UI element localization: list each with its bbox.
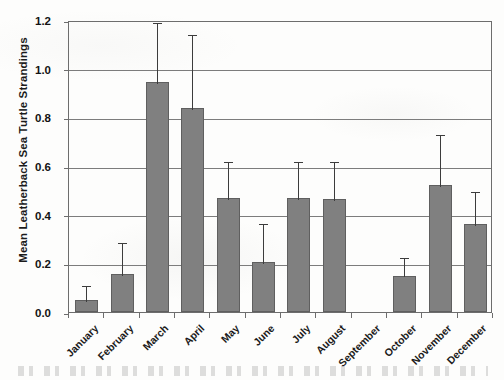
error-bar-stem xyxy=(334,162,335,201)
y-axis-tick-label: 0.2 xyxy=(17,258,51,270)
bar xyxy=(252,262,275,312)
y-axis-tick-label: 0.6 xyxy=(17,161,51,173)
bar xyxy=(393,276,416,313)
y-axis-tick-mark xyxy=(64,168,69,169)
y-axis-tick-mark xyxy=(64,22,69,23)
y-axis-tick-label: 1.2 xyxy=(17,15,51,27)
bar xyxy=(217,198,240,312)
x-axis-tick-mark xyxy=(492,313,493,318)
error-bar-cap xyxy=(153,23,162,24)
error-bar-stem xyxy=(192,35,193,109)
plot-area: 1.21.00.80.60.40.20.0 xyxy=(68,21,492,313)
error-bar-stem xyxy=(440,135,441,187)
bar xyxy=(287,198,310,312)
x-axis-tick-mark xyxy=(139,313,140,318)
bar xyxy=(181,108,204,312)
bar xyxy=(323,199,346,312)
error-bar-cap xyxy=(188,35,197,36)
error-bar-stem xyxy=(122,243,123,276)
gridline xyxy=(69,119,491,120)
error-bar-cap xyxy=(400,258,409,259)
x-axis-tick-mark xyxy=(457,313,458,318)
error-bar-cap xyxy=(224,162,233,163)
y-axis-tick-label: 0.4 xyxy=(17,210,51,222)
chart-figure: Mean Leatherback Sea Turtle Strandings 1… xyxy=(0,0,504,380)
error-bar-stem xyxy=(86,286,87,302)
x-axis-tick-mark xyxy=(351,313,352,318)
bar xyxy=(146,82,169,312)
error-bar-cap xyxy=(259,224,268,225)
x-axis-tick-mark xyxy=(421,313,422,318)
error-bar-cap xyxy=(294,162,303,163)
x-axis-tick-mark xyxy=(315,313,316,318)
error-bar-cap xyxy=(330,162,339,163)
x-axis-tick-mark xyxy=(386,313,387,318)
x-axis-tick-mark xyxy=(68,313,69,318)
y-axis-tick-mark xyxy=(64,70,69,71)
y-axis-tick-label: 0.0 xyxy=(17,307,51,319)
error-bar-cap xyxy=(436,135,445,136)
error-bar-stem xyxy=(228,162,229,200)
y-axis-tick-label: 0.8 xyxy=(17,112,51,124)
x-axis-tick-mark xyxy=(280,313,281,318)
gridline xyxy=(69,70,491,71)
error-bar-stem xyxy=(263,224,264,264)
error-bar-cap xyxy=(82,286,91,287)
error-bar-stem xyxy=(298,162,299,200)
error-bar-stem xyxy=(475,192,476,226)
error-bar-stem xyxy=(157,23,158,84)
x-axis-tick-mark xyxy=(209,313,210,318)
y-axis-tick-mark xyxy=(64,265,69,266)
bar xyxy=(429,185,452,312)
error-bar-stem xyxy=(404,258,405,277)
y-axis-tick-mark xyxy=(64,119,69,120)
y-axis-tick-mark xyxy=(64,216,69,217)
scan-bleed-through xyxy=(18,366,488,376)
x-axis-tick-mark xyxy=(174,313,175,318)
x-axis-tick-mark xyxy=(103,313,104,318)
error-bar-cap xyxy=(471,192,480,193)
bar xyxy=(111,274,134,312)
y-axis-title: Mean Leatherback Sea Turtle Strandings xyxy=(14,0,32,300)
x-axis-tick-mark xyxy=(245,313,246,318)
error-bar-cap xyxy=(118,243,127,244)
gridline xyxy=(69,168,491,169)
bar xyxy=(464,224,487,312)
y-axis-tick-label: 1.0 xyxy=(17,64,51,76)
